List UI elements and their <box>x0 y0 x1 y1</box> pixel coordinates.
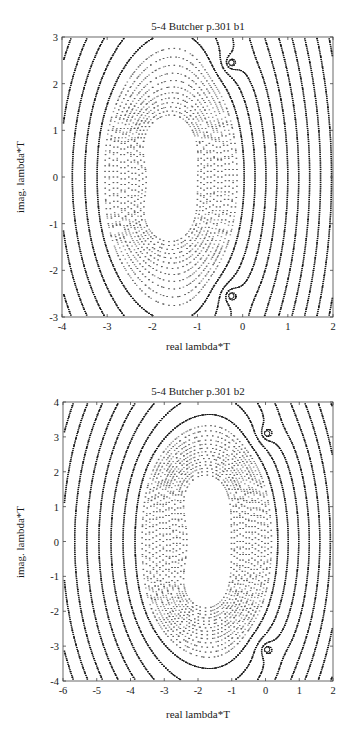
y-axis-label: imag. lambda*T <box>14 506 26 578</box>
contour-level <box>87 404 321 679</box>
contour-path <box>121 81 223 275</box>
contour-path <box>113 65 230 289</box>
y-tick-label: -3 <box>50 641 59 652</box>
contour-level <box>123 403 289 679</box>
contour-level <box>183 475 232 608</box>
contour-level <box>109 57 234 297</box>
contour-set <box>63 38 333 315</box>
x-tick-label: -2 <box>194 685 203 696</box>
contour-level <box>317 38 332 315</box>
y-tick-label: -1 <box>50 571 59 582</box>
y-tick-label: 0 <box>53 172 58 183</box>
y-tick-label: 2 <box>54 467 59 478</box>
plot-frame <box>62 37 333 317</box>
axis-ticks: -6-5-4-3-2-1012-4-3-2-101234 <box>50 397 335 696</box>
contour-level <box>113 65 230 289</box>
y-tick-label: -3 <box>49 312 58 323</box>
contour-path <box>317 38 332 315</box>
contour-level <box>143 115 199 242</box>
x-tick-label: 2 <box>330 685 335 696</box>
x-tick-label: -5 <box>92 685 101 696</box>
x-tick-label: -2 <box>148 321 157 332</box>
contour-level <box>117 73 226 281</box>
x-tick-label: -3 <box>103 321 112 332</box>
x-tick-label: 0 <box>240 321 245 332</box>
contour-level <box>121 81 223 275</box>
pole-marker <box>265 647 270 652</box>
contour-path <box>123 403 289 679</box>
x-tick-label: -4 <box>58 321 67 332</box>
plot-b1: 5-4 Butcher p.301 b1 -4-3-2-1012-3-2-101… <box>14 20 336 352</box>
contour-path <box>127 93 215 263</box>
x-tick-label: -3 <box>160 685 169 696</box>
y-tick-label: -2 <box>50 606 59 617</box>
contour-level <box>131 98 212 258</box>
contour-level <box>64 404 332 679</box>
contour-path <box>177 468 237 615</box>
contour-path <box>172 462 244 622</box>
contour-level <box>305 39 321 315</box>
contour-path <box>142 426 272 658</box>
pole-marker <box>229 60 234 65</box>
contour-path <box>279 39 300 315</box>
x-tick-label: -4 <box>126 685 135 696</box>
contour-path <box>85 39 256 316</box>
pole-marker <box>229 293 234 298</box>
x-tick-label: -1 <box>193 321 202 332</box>
x-tick-label: 0 <box>263 685 268 696</box>
y-tick-label: 1 <box>53 125 58 136</box>
x-tick-label: -1 <box>227 685 236 696</box>
contour-level <box>292 39 310 315</box>
contour-path <box>109 57 234 297</box>
contour-level <box>180 472 235 612</box>
x-tick-label: 1 <box>297 685 302 696</box>
contour-path <box>131 98 212 258</box>
y-tick-label: 1 <box>54 502 59 513</box>
contour-path <box>124 87 218 269</box>
plot-b2: 5-4 Butcher p.301 b2 -6-5-4-3-2-1012-4-3… <box>14 385 336 720</box>
x-tick-label: 1 <box>285 321 290 332</box>
y-tick-label: -1 <box>49 219 58 230</box>
y-tick-label: 0 <box>54 537 59 548</box>
plot-frame <box>63 402 333 681</box>
contour-path <box>143 115 199 242</box>
contour-path <box>169 459 247 625</box>
contour-level <box>85 39 256 316</box>
contour-path <box>117 73 226 281</box>
y-tick-label: -4 <box>50 676 59 687</box>
contour-level <box>177 468 237 615</box>
y-tick-label: -2 <box>49 265 58 276</box>
contour-path <box>174 465 240 618</box>
contour-level <box>279 39 300 315</box>
figure: 5-4 Butcher p.301 b1 -4-3-2-1012-3-2-101… <box>0 0 356 730</box>
pole-marker <box>265 431 270 436</box>
contour-path <box>183 475 232 608</box>
contour-path <box>87 404 321 679</box>
y-tick-label: 2 <box>53 79 58 90</box>
contour-level <box>172 462 244 622</box>
contour-path <box>292 39 310 315</box>
chart-title: 5-4 Butcher p.301 b2 <box>151 385 244 397</box>
y-tick-label: 4 <box>54 397 60 408</box>
contour-set <box>64 403 333 679</box>
y-tick-label: 3 <box>54 432 59 443</box>
contour-level <box>142 426 272 658</box>
x-axis-label: real lambda*T <box>166 708 230 720</box>
contour-level <box>124 87 218 269</box>
y-axis-label: imag. lambda*T <box>14 141 26 213</box>
contour-path <box>305 39 321 315</box>
axis-ticks: -4-3-2-1012-3-2-10123 <box>49 32 335 332</box>
contour-level <box>174 465 240 618</box>
contour-path <box>149 436 265 648</box>
contour-path <box>180 472 235 612</box>
contour-level <box>149 436 265 648</box>
contour-level <box>127 93 215 263</box>
chart-title: 5-4 Butcher p.301 b1 <box>151 20 244 32</box>
x-axis-label: real lambda*T <box>166 340 230 352</box>
contour-path <box>64 404 332 679</box>
x-tick-label: 2 <box>330 321 335 332</box>
contour-level <box>169 459 247 625</box>
x-tick-label: -6 <box>59 685 68 696</box>
y-tick-label: 3 <box>53 32 58 43</box>
